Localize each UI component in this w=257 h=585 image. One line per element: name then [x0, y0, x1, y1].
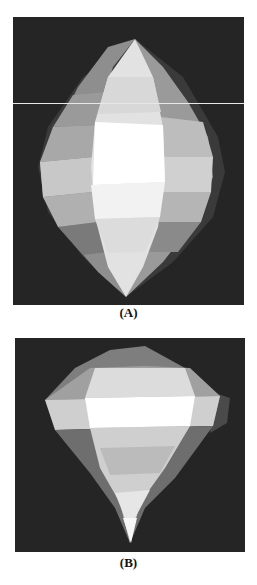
teardrop-shape-render [15, 338, 245, 552]
lens-shape-render [13, 17, 244, 305]
figure-panel-a [13, 17, 244, 305]
figure-panel-b [15, 338, 245, 552]
panel-b-label: (B) [0, 555, 257, 571]
panel-a-label: (A) [0, 305, 257, 321]
